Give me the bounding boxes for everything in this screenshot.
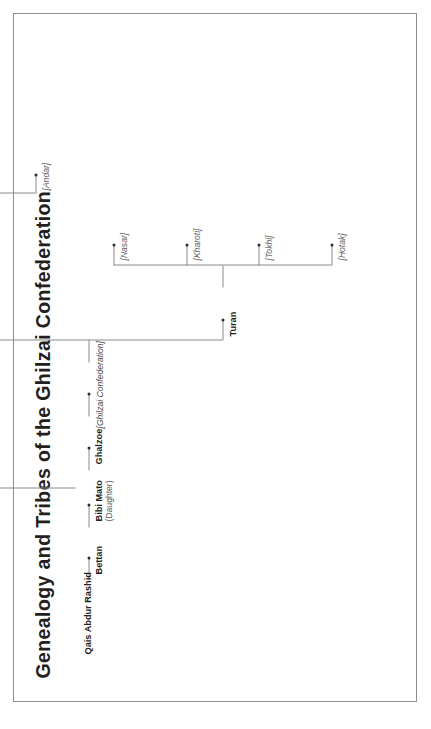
node-bettan[interactable]: Bettan [93,545,104,574]
dot-tokhi [257,243,260,246]
dot-andar [34,173,37,176]
node-label: Ghalzoe [93,428,104,464]
edge-marriage-vertical [0,487,75,488]
node-tokhi[interactable]: [Tokhi] [263,235,273,260]
dot-kharoti [185,243,188,246]
edge-turan-bus [113,264,331,265]
edge-to-turan [222,320,223,340]
edge-musa-bus [0,192,35,193]
node-ghalzoe[interactable]: Ghalzoe [93,428,104,464]
page-frame: Genealogy and Tribes of the Ghilzai Conf… [13,13,417,702]
dot-bibimato [87,503,90,506]
edge-confederation-split-down [88,339,222,340]
edge-confederation-stub [88,340,89,362]
edge-bettan-bibimato [88,505,89,527]
node-nasar[interactable]: [Nasar] [118,232,128,260]
edge-turan-stub [222,265,223,287]
genealogy-diagram: Genealogy and Tribes of the Ghilzai Conf… [13,13,417,702]
edge-turan-tokhi [258,245,259,265]
node-label: Bibi Mato [93,480,104,521]
dot-nasar [112,243,115,246]
node-label: Bettan [93,545,104,574]
node-turan[interactable]: Turan [227,311,238,336]
node-label: Turan [227,311,238,336]
dot-confederation [87,392,90,395]
rotated-chart-canvas: Genealogy and Tribes of the Ghilzai Conf… [13,13,417,702]
edge-musa-andar [35,175,36,193]
node-kharoti[interactable]: [Kharoti] [191,228,201,260]
node-andar[interactable]: [Andar] [40,162,50,190]
node-sublabel: (Daughter) [104,480,114,521]
page-title: Genealogy and Tribes of the Ghilzai Conf… [31,190,54,678]
node-label: Qais Abdur Rashid [82,572,93,654]
edge-turan-nasar [113,245,114,265]
edge-confederation-split [0,339,89,340]
dot-bettan [87,556,90,559]
node-qais-abdur-rashid[interactable]: Qais Abdur Rashid [82,572,93,654]
edge-turan-hotak [331,245,332,265]
node-bibi-mato[interactable]: Bibi Mato (Daughter) [93,480,113,521]
edge-turan-kharoti [186,245,187,265]
dot-ghalzoe [87,446,90,449]
dot-hotak [330,243,333,246]
node-ghilzai-confederation[interactable]: [Ghilzai Confederation] [94,341,104,428]
node-hotak[interactable]: [Hotak] [336,233,346,260]
edge-bibimato-ghalzoe [88,448,89,470]
dot-turan [221,318,224,321]
edge-ghalzoe-confederation [88,394,89,416]
